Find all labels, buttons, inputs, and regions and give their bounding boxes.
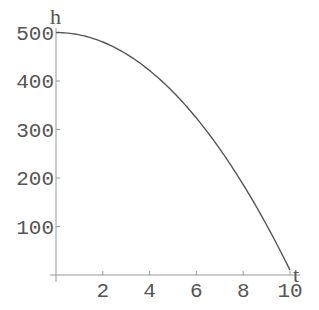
- y-axis-label: h: [50, 4, 61, 29]
- x-tick-label: 2: [96, 280, 109, 303]
- y-tick-label: 400: [16, 71, 54, 94]
- y-tick-label: 300: [16, 120, 54, 143]
- x-axis-label: t: [293, 262, 299, 287]
- data-line: [56, 33, 290, 271]
- y-tick-label: 100: [16, 217, 54, 240]
- x-tick-label: 4: [143, 280, 156, 303]
- axes: [50, 28, 300, 282]
- y-tick-label: 200: [16, 168, 54, 191]
- x-tick-label: 8: [237, 280, 250, 303]
- ticks: [56, 33, 290, 276]
- chart: 246810100200300400500 h t: [0, 0, 319, 310]
- y-tick-label: 500: [16, 23, 54, 46]
- tick-labels: 246810100200300400500: [16, 23, 302, 304]
- x-tick-label: 6: [190, 280, 203, 303]
